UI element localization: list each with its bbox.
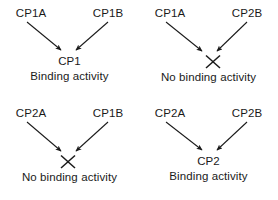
parent-label-left: CP1A [142, 7, 198, 20]
panel-bottom-right: CP2A CP2B CP2 Binding activity [139, 100, 278, 200]
parent-label-left: CP1A [3, 7, 59, 20]
parent-label-right: CP2B [219, 107, 275, 120]
product-label: CP2 [139, 154, 278, 168]
parent-label-right: CP2B [219, 7, 275, 20]
panel-top-right: CP1A CP2B No binding activity [139, 0, 278, 100]
binding-activity-figure: CP1A CP1B CP1 Binding activity CP1A CP2B [0, 0, 278, 200]
parent-label-right: CP1B [80, 107, 136, 120]
cross-mark-icon [0, 152, 139, 170]
outcome-caption: Binding activity [139, 169, 278, 183]
product-label: CP1 [0, 54, 139, 68]
outcome-caption: No binding activity [139, 70, 278, 84]
parent-label-left: CP2A [3, 107, 59, 120]
parent-label-right: CP1B [80, 7, 136, 20]
outcome-caption: No binding activity [0, 170, 139, 184]
parent-label-left: CP2A [142, 107, 198, 120]
outcome-caption: Binding activity [0, 69, 139, 83]
cross-mark-icon [139, 52, 278, 70]
panel-top-left: CP1A CP1B CP1 Binding activity [0, 0, 139, 100]
panel-bottom-left: CP2A CP1B No binding activity [0, 100, 139, 200]
